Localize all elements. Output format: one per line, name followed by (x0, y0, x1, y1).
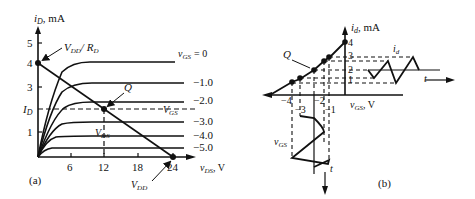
curve-label-0: vGS= 0 (178, 48, 207, 61)
curve-label-m2: −2.0 (193, 94, 213, 106)
panel-a (35, 26, 196, 181)
t-label-right: t (424, 73, 427, 84)
vdd-rd-label: VDD/ RD (64, 41, 98, 55)
caption-a: (a) (29, 174, 42, 187)
y-tick-5: 5 (27, 37, 33, 49)
y-axis-arrow-icon (35, 26, 41, 34)
y-tick-4: 4 (27, 57, 33, 69)
q-label-b: Q (283, 48, 291, 60)
x-tick-18: 18 (132, 161, 144, 173)
vds-label: VDS (95, 127, 110, 140)
t-arrow-down-icon (322, 186, 328, 195)
y-axis-label-b: id, mA (351, 21, 380, 35)
t-arrow-right-icon (446, 77, 455, 83)
y-tick-1: 1 (27, 126, 33, 138)
curve-label-m1: −1.0 (193, 76, 213, 88)
id-wave-label: id (393, 43, 400, 56)
q-label-a: Q (124, 81, 132, 93)
caption-b: (b) (378, 177, 391, 190)
curve-label-m5: −5.0 (193, 141, 213, 153)
vgs-label-dashed: VGS (163, 104, 178, 117)
curve-vgs-m4 (38, 136, 184, 157)
vgs-wave-label: vGS (274, 136, 288, 149)
x-tick-24: 24 (167, 161, 179, 173)
curve-vgs-m3 (38, 122, 184, 157)
curve-label-m4: −4.0 (193, 129, 213, 141)
id-axis-arrow-icon (342, 26, 348, 35)
id-label: ID (22, 103, 33, 117)
x-tick-12: 12 (98, 161, 109, 173)
y-tick-3: 3 (27, 81, 33, 93)
t-label-down: t (330, 163, 333, 174)
y-axis-label-a: iD, mA (34, 12, 65, 26)
x-tick-b-m1: −1 (325, 104, 336, 115)
curve-label-m3: −3.0 (193, 115, 213, 127)
x-axis-label-b: vGS, V (350, 99, 376, 112)
y-tick-b-4: 4 (348, 37, 353, 48)
x-tick-6: 6 (67, 161, 73, 173)
load-line-top-point (35, 60, 41, 66)
x-tick-b-m3: −3 (295, 104, 306, 115)
load-line-bottom-point (170, 154, 176, 160)
x-tick-b-m4: −4 (281, 95, 292, 106)
curve-vgs-m1 (38, 83, 184, 157)
x-axis-label-a: vDS, V (200, 162, 226, 175)
x-tick-b-m2: −2 (314, 95, 325, 106)
y-tick-b-1: 1 (348, 74, 353, 85)
transfer-curve (270, 42, 345, 95)
y-tick-b-3: 3 (348, 50, 353, 61)
x-axis-arrow-icon (186, 154, 196, 160)
vdd-label: VDD (131, 179, 147, 192)
